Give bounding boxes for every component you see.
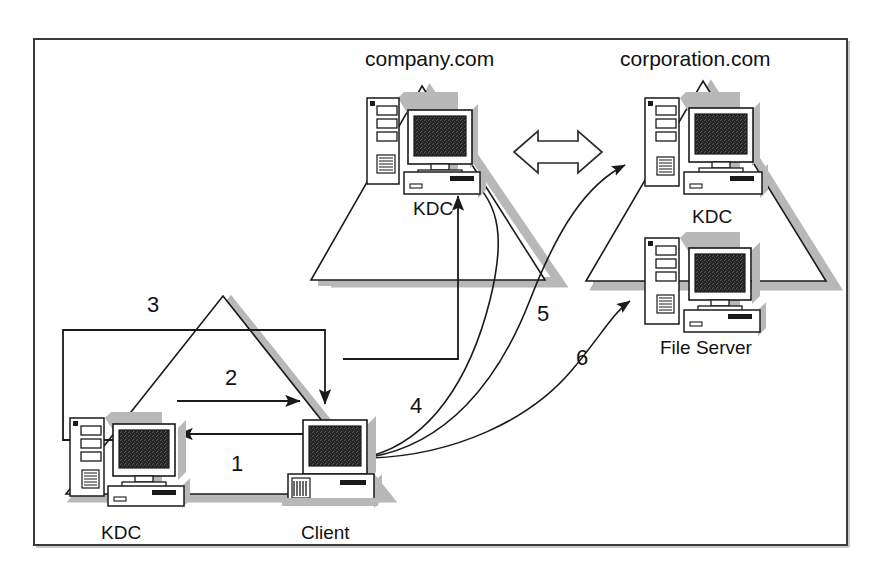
step-label-4: 4 — [410, 395, 422, 417]
realm-label-corporation: corporation.com — [620, 48, 771, 69]
diagram-svg — [0, 0, 881, 571]
node-label-client: Client — [301, 523, 350, 542]
step-label-5: 5 — [537, 303, 549, 325]
step-label-1: 1 — [231, 453, 243, 475]
node-label-local-kdc: KDC — [101, 523, 141, 542]
step-label-3: 3 — [147, 294, 159, 316]
diagram-canvas: company.com corporation.com KDC KDC File… — [0, 0, 881, 571]
node-label-company-kdc: KDC — [413, 199, 453, 218]
node-local-kdc — [70, 412, 190, 508]
step-label-2: 2 — [225, 367, 237, 389]
node-corporation-kdc — [645, 92, 768, 198]
node-label-file-server: File Server — [660, 338, 752, 357]
node-label-corporation-kdc: KDC — [692, 207, 732, 226]
realm-label-company: company.com — [365, 48, 494, 69]
node-file-server — [645, 232, 766, 336]
step-label-6: 6 — [576, 347, 588, 369]
